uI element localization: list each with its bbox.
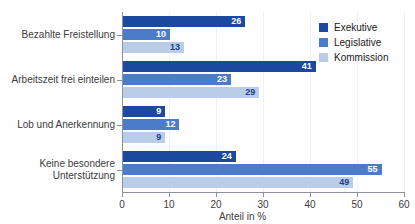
legend-swatch-exekutive [319,23,328,32]
bar-value-label: 49 [339,177,349,188]
bar-value-label: 12 [165,119,175,130]
x-tick-label: 30 [257,199,268,210]
legend-label-exekutive: Exekutive [334,22,377,33]
bar-value-label: 26 [231,16,241,27]
gridline [404,12,405,192]
bar: 9 [123,106,165,117]
bar: 29 [123,87,259,98]
bar: 24 [123,151,236,162]
y-tick [117,170,122,171]
bar-value-label: 55 [367,164,377,175]
bar-value-label: 23 [217,74,227,85]
category-label: Arbeitszeit frei einteilen [12,74,115,86]
x-axis-title: Anteil in % [0,211,415,222]
bar: 23 [123,74,231,85]
legend-label-kommission: Kommission [334,52,388,63]
bar: 49 [123,177,353,188]
bar-value-label: 13 [170,42,180,53]
x-tick [404,192,405,197]
category-label: Keine besondere Unterstützung [39,158,115,182]
x-tick-label: 40 [304,199,315,210]
bar: 13 [123,42,184,53]
legend-item-kommission: Kommission [319,50,388,65]
bar-value-label: 41 [302,61,312,72]
legend-swatch-kommission [319,53,328,62]
bar: 26 [123,16,245,27]
x-tick-label: 0 [119,199,125,210]
bar: 9 [123,132,165,143]
legend-label-legislative: Legislative [334,37,381,48]
x-tick [310,192,311,197]
legend-swatch-legislative [319,38,328,47]
bar: 12 [123,119,179,130]
bar-chart: 0102030405060 Bezahlte FreistellungArbei… [0,0,415,224]
y-tick [117,125,122,126]
x-tick [216,192,217,197]
bar: 10 [123,29,170,40]
category-label: Lob und Anerkennung [17,119,115,131]
x-tick-label: 20 [210,199,221,210]
x-tick [169,192,170,197]
bar-value-label: 24 [222,151,232,162]
x-tick-label: 50 [351,199,362,210]
x-tick-label: 60 [398,199,409,210]
x-tick-label: 10 [163,199,174,210]
bar: 55 [123,164,382,175]
legend-item-exekutive: Exekutive [319,20,388,35]
y-tick [117,80,122,81]
bar-value-label: 9 [156,106,161,117]
bar: 41 [123,61,316,72]
bar-value-label: 10 [156,29,166,40]
legend-item-legislative: Legislative [319,35,388,50]
bar-value-label: 29 [245,87,255,98]
y-tick [117,35,122,36]
category-label: Bezahlte Freistellung [22,29,115,41]
x-tick [122,192,123,197]
x-tick [357,192,358,197]
legend: Exekutive Legislative Kommission [319,20,388,65]
x-tick [263,192,264,197]
bar-value-label: 9 [156,132,161,143]
x-axis-title-text: Anteil in % [219,211,266,222]
